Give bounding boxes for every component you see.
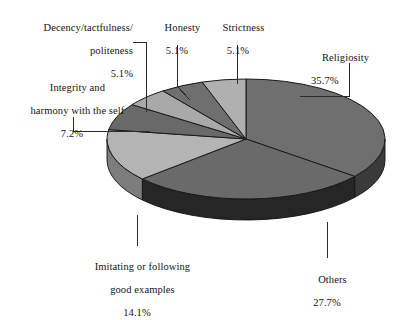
slice-label-imitating-line1: Imitating or following <box>95 261 191 272</box>
slice-label-integrity: Integrity and harmony with the self 7.2% <box>8 70 136 163</box>
slice-label-others: Others 27.7% <box>296 262 358 320</box>
slice-label-strictness: Strictness 5.1% <box>203 10 273 80</box>
slice-percent-honesty: 5.1% <box>145 45 209 57</box>
slice-label-religiosity-line1: Religiosity <box>322 52 369 63</box>
slice-label-decency-line2: politeness <box>90 45 133 56</box>
slice-label-integrity-line2: harmony with the self <box>30 105 124 116</box>
slice-percent-integrity: 7.2% <box>8 128 136 140</box>
slice-percent-imitating: 14.1% <box>62 307 212 319</box>
slice-label-others-line1: Others <box>318 274 347 285</box>
slice-percent-others: 27.7% <box>296 297 358 309</box>
slice-label-strictness-line1: Strictness <box>223 22 265 33</box>
slice-label-decency-line1: Decency/tactfulness/ <box>44 22 133 33</box>
slice-label-integrity-line1: Integrity and <box>50 82 105 93</box>
slice-percent-strictness: 5.1% <box>203 45 273 57</box>
slice-label-imitating: Imitating or following good examples 14.… <box>62 249 212 320</box>
slice-label-honesty: Honesty 5.1% <box>145 10 209 80</box>
slice-label-honesty-line1: Honesty <box>165 22 201 33</box>
slice-label-imitating-line2: good examples <box>110 284 175 295</box>
slice-percent-religiosity: 35.7% <box>311 75 407 87</box>
slice-label-religiosity: Religiosity 35.7% <box>311 40 407 110</box>
